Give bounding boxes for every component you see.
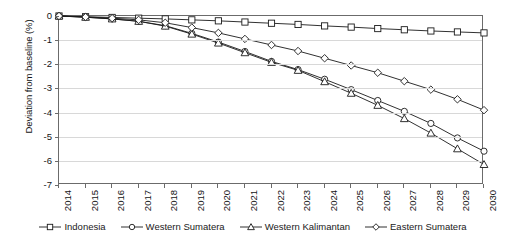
- legend-swatch-square: [39, 222, 61, 232]
- x-tick-label: 2015: [89, 190, 100, 211]
- x-tick-mark: [483, 184, 484, 188]
- marker-diamond: [374, 69, 381, 76]
- gridline: [59, 137, 482, 138]
- x-tick-label: 2016: [115, 190, 126, 211]
- legend-item-eastern-sumatera[interactable]: Eastern Sumatera: [365, 221, 467, 232]
- x-tick-mark: [244, 184, 245, 188]
- chart-legend: IndonesiaWestern SumateraWestern Kaliman…: [0, 221, 506, 232]
- y-tick-label: -2: [18, 58, 52, 69]
- marker-triangle: [400, 115, 408, 122]
- x-tick-mark: [271, 184, 272, 188]
- x-tick-label: 2030: [487, 190, 498, 211]
- marker-diamond: [427, 86, 434, 93]
- marker-square: [481, 30, 487, 36]
- marker-square: [295, 21, 301, 27]
- series-line: [59, 16, 484, 151]
- gridline: [59, 64, 482, 65]
- x-tick-label: 2014: [62, 190, 73, 211]
- legend-label: Indonesia: [64, 221, 105, 232]
- marker-circle: [129, 224, 134, 229]
- marker-square: [322, 23, 328, 29]
- x-tick-mark: [377, 184, 378, 188]
- gridline: [59, 40, 482, 41]
- marker-square: [348, 24, 354, 30]
- marker-square: [428, 28, 434, 34]
- series-western-kalimantan: [55, 12, 488, 167]
- y-tick-label: -5: [18, 130, 52, 141]
- marker-diamond: [241, 35, 248, 42]
- marker-circle: [428, 120, 434, 126]
- y-tick-label: -4: [18, 106, 52, 117]
- y-tick-mark: [55, 88, 59, 89]
- y-tick-label: -7: [18, 179, 52, 190]
- series-line: [59, 16, 484, 164]
- marker-diamond: [188, 24, 195, 31]
- x-tick-label: 2021: [248, 190, 259, 211]
- legend-swatch-diamond: [365, 222, 387, 232]
- marker-diamond: [294, 47, 301, 54]
- x-tick-mark: [456, 184, 457, 188]
- marker-diamond: [401, 77, 408, 84]
- x-tick-mark: [138, 184, 139, 188]
- x-tick-mark: [350, 184, 351, 188]
- marker-square: [215, 18, 221, 24]
- x-tick-mark: [58, 184, 59, 188]
- marker-square: [268, 20, 274, 26]
- y-tick-mark: [55, 16, 59, 17]
- marker-square: [48, 224, 53, 229]
- gridline: [59, 88, 482, 89]
- series-indonesia: [56, 13, 487, 36]
- x-tick-label: 2026: [381, 190, 392, 211]
- x-tick-label: 2023: [301, 190, 312, 211]
- y-tick-mark: [55, 113, 59, 114]
- legend-swatch-circle: [121, 222, 143, 232]
- y-tick-label: -1: [18, 34, 52, 45]
- marker-diamond: [373, 223, 379, 229]
- y-tick-label: 0: [18, 10, 52, 21]
- x-tick-mark: [297, 184, 298, 188]
- x-tick-mark: [217, 184, 218, 188]
- x-tick-mark: [403, 184, 404, 188]
- y-tick-label: -6: [18, 154, 52, 165]
- x-tick-label: 2028: [434, 190, 445, 211]
- x-tick-mark: [430, 184, 431, 188]
- marker-diamond: [454, 96, 461, 103]
- marker-diamond: [215, 29, 222, 36]
- x-tick-mark: [324, 184, 325, 188]
- marker-square: [454, 29, 460, 35]
- marker-square: [189, 17, 195, 23]
- marker-square: [401, 27, 407, 33]
- marker-diamond: [321, 55, 328, 62]
- marker-circle: [481, 148, 487, 154]
- plot-area: [58, 15, 483, 184]
- legend-item-western-sumatera[interactable]: Western Sumatera: [121, 221, 225, 232]
- marker-triangle: [454, 145, 462, 152]
- legend-item-western-kalimantan[interactable]: Western Kalimantan: [240, 221, 350, 232]
- legend-label: Western Sumatera: [146, 221, 225, 232]
- x-tick-label: 2018: [168, 190, 179, 211]
- gridline: [59, 161, 482, 162]
- chart-figure: Deviation from baseline (%) 0-1-2-3-4-5-…: [0, 0, 506, 242]
- series-layer: [59, 16, 484, 185]
- x-tick-mark: [164, 184, 165, 188]
- marker-diamond: [268, 41, 275, 48]
- marker-triangle: [427, 129, 435, 136]
- x-tick-mark: [191, 184, 192, 188]
- gridline: [59, 113, 482, 114]
- y-tick-label: -3: [18, 82, 52, 93]
- legend-swatch-triangle: [240, 222, 262, 232]
- x-tick-label: 2020: [221, 190, 232, 211]
- legend-item-indonesia[interactable]: Indonesia: [39, 221, 105, 232]
- x-tick-label: 2029: [460, 190, 471, 211]
- x-tick-mark: [85, 184, 86, 188]
- series-western-sumatera: [56, 13, 487, 154]
- x-tick-label: 2024: [328, 190, 339, 211]
- y-tick-mark: [55, 40, 59, 41]
- x-tick-mark: [111, 184, 112, 188]
- legend-label: Western Kalimantan: [265, 221, 350, 232]
- y-tick-mark: [55, 137, 59, 138]
- y-tick-mark: [55, 64, 59, 65]
- x-tick-label: 2019: [195, 190, 206, 211]
- x-tick-label: 2025: [354, 190, 365, 211]
- marker-diamond: [347, 62, 354, 69]
